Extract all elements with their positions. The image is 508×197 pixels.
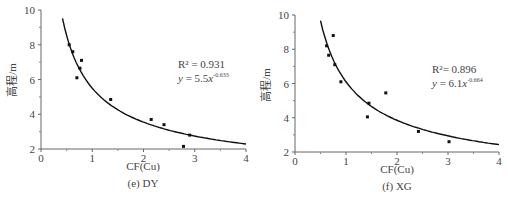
y-tick-label: 4 bbox=[284, 112, 290, 124]
x-tick-label: 4 bbox=[243, 152, 249, 164]
x-axis-label: CF(Cu) bbox=[83, 160, 203, 172]
fit-equation: y = 5.5x-0.633 bbox=[177, 72, 229, 84]
y-tick-label: 2 bbox=[30, 143, 36, 155]
y-tick-label: 8 bbox=[284, 43, 290, 55]
y-tick-label: 6 bbox=[30, 74, 36, 86]
data-point bbox=[68, 43, 71, 46]
x-tick-label: 4 bbox=[496, 155, 502, 167]
r-squared-label: R²= 0.896 bbox=[432, 63, 477, 75]
data-point bbox=[80, 59, 83, 62]
data-point bbox=[366, 115, 369, 118]
data-point bbox=[339, 80, 342, 83]
r-squared-label: R² = 0.931 bbox=[178, 58, 225, 70]
data-point bbox=[384, 91, 387, 94]
panel-caption: (f) XG bbox=[337, 180, 457, 192]
data-point bbox=[78, 67, 81, 70]
y-tick-label: 4 bbox=[30, 108, 36, 120]
y-tick-label: 2 bbox=[284, 146, 290, 158]
y-tick-label: 6 bbox=[284, 78, 290, 90]
x-tick-label: 0 bbox=[292, 155, 298, 167]
x-tick-label: 0 bbox=[38, 152, 44, 164]
chart-panel-f-xg: 01234246810高程/mR²= 0.896y = 6.1x-0.664 C… bbox=[254, 0, 508, 197]
data-point bbox=[71, 50, 74, 53]
fit-equation: y = 6.1x-0.664 bbox=[431, 77, 483, 89]
data-point bbox=[188, 134, 191, 137]
data-point bbox=[163, 123, 166, 126]
data-point bbox=[333, 63, 336, 66]
y-tick-label: 10 bbox=[278, 9, 290, 21]
y-tick-label: 8 bbox=[30, 39, 36, 51]
data-point bbox=[75, 76, 78, 79]
data-point bbox=[325, 44, 328, 47]
data-point bbox=[448, 140, 451, 143]
data-point bbox=[182, 145, 185, 148]
data-point bbox=[367, 102, 370, 105]
chart-panel-e-dy: 01234246810高程/mR² = 0.931y = 5.5x-0.633 … bbox=[0, 0, 254, 197]
data-point bbox=[327, 54, 330, 57]
data-point bbox=[150, 118, 153, 121]
y-axis-label: 高程/m bbox=[259, 68, 272, 102]
data-point bbox=[109, 98, 112, 101]
data-point bbox=[332, 34, 335, 37]
data-point bbox=[417, 130, 420, 133]
y-tick-label: 10 bbox=[24, 4, 36, 16]
power-fit-curve bbox=[63, 18, 247, 144]
panel-caption: (e) DY bbox=[83, 177, 203, 189]
y-axis-label: 高程/m bbox=[5, 63, 18, 97]
x-axis-label: CF(Cu) bbox=[337, 163, 457, 175]
